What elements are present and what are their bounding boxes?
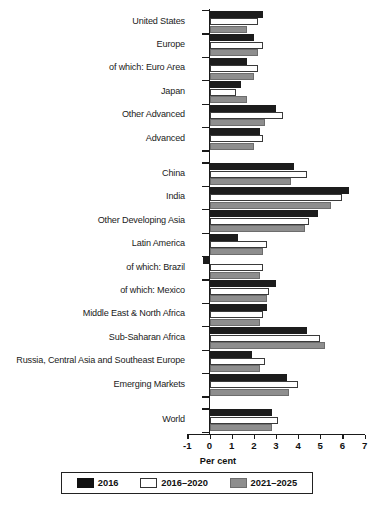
bar-2016 — [210, 280, 276, 287]
bar-2016-2020 — [210, 264, 263, 271]
x-tick — [232, 435, 233, 439]
chart-row: World — [0, 408, 374, 431]
bar-2016 — [210, 105, 276, 112]
chart-row: India — [0, 186, 374, 209]
bar-group — [0, 127, 374, 150]
x-tick — [320, 435, 321, 439]
y-tick — [202, 326, 209, 327]
bar-2021-2025 — [210, 248, 263, 255]
bar-2016-2020 — [210, 358, 265, 365]
y-tick — [202, 162, 209, 163]
y-tick — [202, 127, 209, 128]
bar-group — [0, 10, 374, 33]
legend-item-2016: 2016 — [77, 478, 119, 488]
legend-label-2021-2025: 2021–2025 — [251, 478, 298, 488]
bar-2016 — [210, 351, 252, 358]
x-tick-label: 4 — [288, 440, 308, 451]
bar-2021-2025 — [210, 365, 261, 372]
legend-swatch-2016-2020 — [140, 478, 157, 488]
x-tick-label: 7 — [355, 440, 374, 451]
chart-row: of which: Brazil — [0, 256, 374, 279]
y-tick — [202, 350, 209, 351]
bar-2021-2025 — [210, 202, 332, 209]
bar-2021-2025 — [210, 26, 248, 33]
chart-row: Middle East & North Africa — [0, 303, 374, 326]
bar-group — [0, 233, 374, 256]
bar-2016-2020 — [210, 89, 237, 96]
bar-2021-2025 — [210, 295, 268, 302]
bar-group — [0, 373, 374, 396]
bar-2016-2020 — [210, 417, 279, 424]
bar-2016-2020 — [210, 194, 343, 201]
bar-group — [0, 162, 374, 185]
bar-group — [0, 186, 374, 209]
bar-2016-2020 — [210, 112, 283, 119]
x-tick-label: 0 — [200, 440, 220, 451]
legend-label-2016-2020: 2016–2020 — [161, 478, 208, 488]
bar-2021-2025 — [210, 424, 272, 431]
y-tick — [202, 256, 209, 257]
bar-2016 — [210, 327, 307, 334]
chart-row: Latin America — [0, 233, 374, 256]
y-tick — [202, 80, 209, 81]
bar-2016-2020 — [210, 218, 310, 225]
chart-row: of which: Mexico — [0, 279, 374, 302]
chart-row: Sub-Saharan Africa — [0, 326, 374, 349]
bar-2016-2020 — [210, 288, 270, 295]
y-tick — [202, 33, 209, 34]
y-tick — [202, 209, 209, 210]
x-tick-label: 2 — [244, 440, 264, 451]
bar-2016 — [210, 58, 248, 65]
y-tick — [202, 150, 209, 151]
chart-row: Other Advanced — [0, 104, 374, 127]
chart-row: Europe — [0, 33, 374, 56]
y-tick — [202, 303, 209, 304]
y-tick — [202, 186, 209, 187]
plot-area: United StatesEuropeof which: Euro AreaJa… — [0, 8, 374, 460]
chart-row: United States — [0, 10, 374, 33]
bar-group — [0, 303, 374, 326]
x-tick-label: 3 — [266, 440, 286, 451]
bar-2016 — [210, 163, 294, 170]
y-tick — [202, 57, 209, 58]
bar-2021-2025 — [210, 342, 325, 349]
chart-row: Russia, Central Asia and Southeast Europ… — [0, 350, 374, 373]
chart-row: Emerging Markets — [0, 373, 374, 396]
y-tick — [202, 373, 209, 374]
chart-row: of which: Euro Area — [0, 57, 374, 80]
y-tick — [202, 408, 209, 409]
bar-group — [0, 209, 374, 232]
bar-group — [0, 408, 374, 431]
legend-item-2016-2020: 2016–2020 — [140, 478, 208, 488]
bar-group — [0, 256, 374, 279]
x-tick-label: 6 — [332, 440, 352, 451]
bar-group — [0, 279, 374, 302]
legend-label-2016: 2016 — [98, 478, 119, 488]
legend-swatch-2016 — [77, 478, 94, 488]
x-tick — [187, 435, 188, 439]
bar-2021-2025 — [210, 319, 261, 326]
y-tick — [202, 104, 209, 105]
x-tick — [210, 435, 211, 439]
bar-2016 — [210, 187, 350, 194]
bar-group — [0, 326, 374, 349]
legend-item-2021-2025: 2021–2025 — [230, 478, 298, 488]
x-axis-title: Per cent — [0, 456, 374, 466]
bar-2016-2020 — [210, 135, 263, 142]
x-tick — [365, 435, 366, 439]
bar-2021-2025 — [210, 96, 248, 103]
bar-group — [0, 104, 374, 127]
y-tick — [202, 10, 209, 11]
bar-2021-2025 — [210, 143, 254, 150]
bar-2021-2025 — [210, 389, 290, 396]
y-tick — [202, 396, 209, 397]
bar-2016-2020 — [210, 171, 307, 178]
x-tick — [342, 435, 343, 439]
bar-2016 — [210, 81, 241, 88]
y-tick — [202, 432, 209, 433]
chart-legend: 2016 2016–2020 2021–2025 — [61, 472, 313, 494]
bar-group — [0, 350, 374, 373]
chart-row: China — [0, 162, 374, 185]
y-axis-line — [209, 9, 210, 434]
x-tick-label: 5 — [310, 440, 330, 451]
